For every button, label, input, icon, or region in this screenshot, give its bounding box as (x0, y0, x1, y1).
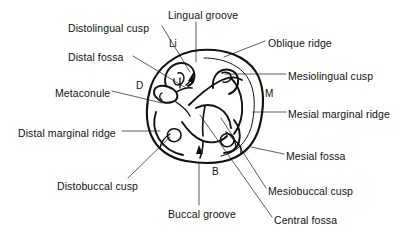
label-mesial-fossa: Mesial fossa (286, 150, 346, 162)
label-mesiolingual-cusp: Mesiolingual cusp (288, 70, 373, 82)
label-distolingual-cusp: Distolingual cusp (68, 22, 149, 34)
metaconule-outline (154, 86, 177, 103)
label-oblique-ridge: Oblique ridge (268, 37, 332, 49)
label-mesial-marginal-ridge: Mesial marginal ridge (288, 108, 390, 120)
distolingual-cusp-tip (174, 73, 184, 85)
marker-lingual: Li (169, 38, 177, 49)
occlusal-anatomy-group (154, 63, 242, 158)
leader-distobuccal-cusp (128, 137, 170, 178)
distal-fossa-groove (176, 88, 192, 92)
supplemental-groove (176, 102, 190, 116)
leader-lines (112, 22, 286, 217)
leader-oblique-ridge (224, 41, 265, 57)
dental-occlusal-diagram: Lingual groove Distolingual cusp Oblique… (0, 0, 418, 241)
marker-buccal: B (212, 166, 219, 177)
distobuccal-cusp-tip (167, 129, 181, 142)
label-central-fossa: Central fossa (274, 214, 337, 226)
label-metaconule: Metaconule (55, 87, 110, 99)
tooth-figure-svg (0, 0, 418, 241)
label-lingual-groove: Lingual groove (168, 9, 238, 21)
leader-mesial-fossa (251, 147, 284, 154)
label-distobuccal-cusp: Distobuccal cusp (57, 180, 138, 192)
label-buccal-groove: Buccal groove (168, 208, 236, 220)
label-distal-marginal-ridge: Distal marginal ridge (18, 127, 116, 139)
label-mesiobuccal-cusp: Mesiobuccal cusp (268, 185, 353, 197)
label-distal-fossa: Distal fossa (68, 51, 123, 63)
marker-mesial: M (265, 88, 273, 99)
metaconule-inner (160, 93, 162, 100)
marker-distal: D (136, 80, 143, 91)
